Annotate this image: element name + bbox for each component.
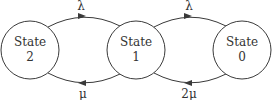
- label-s1-s0: λ: [185, 0, 193, 13]
- arrowhead-left-icon: [78, 80, 86, 86]
- arrowhead-left-icon: [184, 80, 192, 86]
- label-s1-s2: μ: [79, 87, 87, 100]
- label-s0-s1: 2μ: [181, 87, 197, 100]
- state-0-number: 0: [238, 50, 246, 64]
- state-2-number: 2: [26, 50, 34, 64]
- arrowhead-right-icon: [78, 13, 86, 19]
- state-node-1: State 1: [107, 21, 165, 79]
- label-s2-s1: λ: [77, 0, 85, 13]
- state-2-label: State: [14, 35, 46, 49]
- state-1-label: State: [120, 35, 152, 49]
- transition-s1-s0-arc: [154, 17, 226, 27]
- arrowhead-right-icon: [184, 13, 192, 19]
- state-node-2: State 2: [1, 21, 59, 79]
- transition-s2-s1-arc: [48, 17, 120, 27]
- state-diagram: λ λ μ 2μ State 2 State 1 State 0: [0, 0, 272, 100]
- state-0-label: State: [226, 35, 258, 49]
- state-1-number: 1: [132, 50, 140, 64]
- state-node-0: State 0: [213, 21, 271, 79]
